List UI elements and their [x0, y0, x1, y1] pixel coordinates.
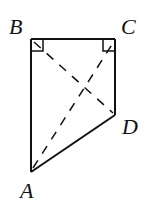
side-da — [31, 115, 115, 172]
vertex-label-b: B — [9, 14, 22, 39]
diagonal-bd — [34, 42, 113, 113]
vertex-label-a: A — [18, 178, 34, 203]
vertex-label-d: D — [121, 114, 138, 139]
diagonal-ac — [33, 43, 113, 168]
diagonals — [33, 42, 113, 168]
right-angle-markers — [31, 39, 115, 51]
vertex-label-c: C — [121, 14, 136, 39]
quadrilateral-diagram: B C D A — [0, 0, 152, 207]
